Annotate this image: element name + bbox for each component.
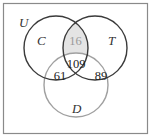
universe-label: U (19, 15, 30, 30)
venn-diagram: U C T D 16 109 61 89 (0, 0, 151, 137)
set-c-label: C (37, 33, 46, 48)
region-c-d-value: 61 (54, 69, 67, 83)
set-d-label: D (71, 101, 82, 116)
region-c-t-value: 16 (69, 34, 82, 48)
region-t-d-value: 89 (95, 69, 108, 83)
region-c-t-d-value: 109 (67, 57, 86, 71)
set-t-label: T (108, 33, 116, 48)
